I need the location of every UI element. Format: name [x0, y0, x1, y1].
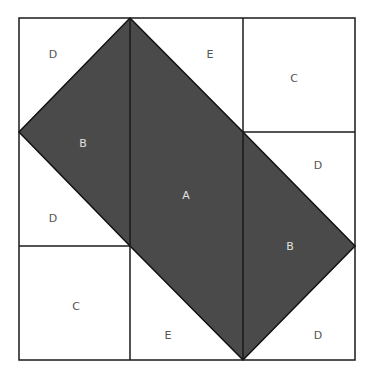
label-c-bottom-left: C — [72, 300, 80, 313]
label-d-bottom-right: D — [314, 329, 322, 342]
label-b-right: B — [286, 240, 294, 253]
label-d-left-lower: D — [49, 212, 57, 225]
label-e-bottom: E — [165, 329, 172, 342]
label-e-top: E — [207, 48, 214, 61]
label-b-left: B — [79, 137, 87, 150]
label-a-center: A — [182, 189, 190, 202]
label-c-top-right: C — [290, 72, 298, 85]
geometric-diagram: DECBDADBCED — [0, 0, 373, 382]
label-d-top-left: D — [49, 48, 57, 61]
diagram-canvas: DECBDADBCED — [0, 0, 373, 382]
label-d-right-upper: D — [314, 159, 322, 172]
